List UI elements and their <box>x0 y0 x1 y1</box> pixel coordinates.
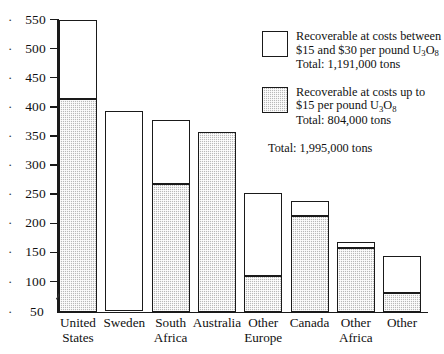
legend-lower-line3: Total: 804,000 tons <box>296 114 425 128</box>
legend-upper-sub1: 3 <box>421 48 425 58</box>
chart-legend: Recoverable at costs between $15 and $30… <box>262 30 442 155</box>
legend-grand-total: Total: 1,995,000 tons <box>268 142 442 156</box>
y-tick-mark <box>50 106 57 107</box>
bar-segment-lower <box>383 293 421 312</box>
legend-item-upper: Recoverable at costs between $15 and $30… <box>262 30 442 72</box>
y-tick-mark <box>50 252 57 253</box>
bar-segment-lower <box>291 216 329 312</box>
y-tick-label: 550 <box>0 13 46 27</box>
y-tick-label: 450 <box>0 71 46 85</box>
legend-upper-sub2: 8 <box>435 48 439 58</box>
y-tick-label: 250 <box>0 187 46 201</box>
x-axis-label-line: Africa <box>140 331 202 346</box>
bar-segment-upper <box>152 120 190 184</box>
legend-upper-mid: O <box>426 43 435 57</box>
legend-lower-line1: Recoverable at costs up to <box>296 86 425 100</box>
legend-lower-line2-pre: $15 per pound U <box>296 98 379 112</box>
x-axis-label-line: Africa <box>325 331 387 346</box>
bar-segment-upper <box>291 201 329 216</box>
legend-item-lower: Recoverable at costs up to $15 per pound… <box>262 86 442 128</box>
y-tick-mark <box>50 223 57 224</box>
y-tick-label: 100 <box>0 275 46 289</box>
bar-segment-upper <box>244 193 282 276</box>
x-axis-label-line: Europe <box>232 331 294 346</box>
y-tick-mark <box>50 77 57 78</box>
bar-segment-upper <box>105 111 143 311</box>
bar-segment-upper <box>59 20 97 100</box>
legend-lower-mid: O <box>383 98 392 112</box>
y-tick-label: 200 <box>0 216 46 230</box>
legend-lower-sub1: 3 <box>379 104 383 114</box>
y-tick-mark <box>50 48 57 49</box>
x-axis-label-line: States <box>47 331 109 346</box>
legend-upper-line2: $15 and $30 per pound U3O8 <box>296 44 441 59</box>
x-axis-label-line: Other <box>371 316 433 331</box>
legend-label-lower: Recoverable at costs up to $15 per pound… <box>296 86 425 128</box>
bar-segment-lower <box>337 248 375 312</box>
legend-lower-sub2: 8 <box>392 104 396 114</box>
legend-swatch-gray-icon <box>262 87 288 113</box>
y-tick-mark <box>50 193 57 194</box>
y-tick-label: 150 <box>0 245 46 259</box>
legend-upper-line3: Total: 1,191,000 tons <box>296 58 441 72</box>
y-tick-label: 350 <box>0 129 46 143</box>
y-tick-label: 300 <box>0 158 46 172</box>
y-tick-mark <box>50 281 57 282</box>
y-tick-label: 500 <box>0 42 46 56</box>
y-tick-label: 50 <box>0 305 44 319</box>
legend-label-upper: Recoverable at costs between $15 and $30… <box>296 30 441 72</box>
legend-upper-line2-pre: $15 and $30 per pound U <box>296 43 421 57</box>
bar-segment-lower <box>244 276 282 313</box>
legend-lower-line2: $15 per pound U3O8 <box>296 99 425 114</box>
legend-swatch-white-icon <box>262 31 288 57</box>
y-tick-mark <box>50 19 57 20</box>
bar-segment-lower <box>198 132 236 313</box>
bar-segment-upper <box>383 256 421 293</box>
x-axis-label-other: Other <box>371 316 433 331</box>
y-tick-label: 400 <box>0 100 46 114</box>
y-tick-mark <box>50 135 57 136</box>
bar-segment-lower <box>152 184 190 313</box>
legend-upper-line1: Recoverable at costs between <box>296 30 441 44</box>
y-tick-mark <box>50 164 57 165</box>
chart-page: ·550·500·450·400·350·300·250·200·150·100… <box>0 0 444 354</box>
bar-segment-lower <box>59 99 97 312</box>
